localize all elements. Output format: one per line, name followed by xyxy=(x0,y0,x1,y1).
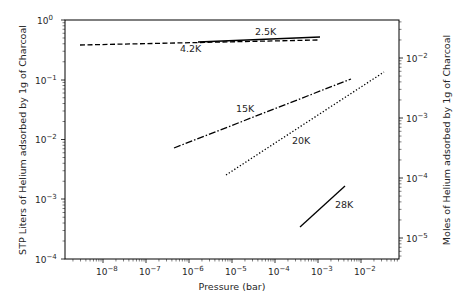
svg-text:100: 100 xyxy=(37,14,53,26)
svg-text:10−3: 10−3 xyxy=(311,265,333,277)
label-28K: 28K xyxy=(335,199,354,210)
svg-text:10−4: 10−4 xyxy=(35,253,57,265)
x-tick-labels: 10−8 10−7 10−6 10−5 10−4 10−3 10−2 xyxy=(96,265,376,277)
label-20K: 20K xyxy=(292,135,311,146)
plot-frame xyxy=(65,20,399,259)
y-right-tick-labels: 10−2 10−3 10−4 10−5 xyxy=(406,52,428,244)
chart: 10−8 10−7 10−6 10−5 10−4 10−3 10−2 100 1… xyxy=(0,0,463,301)
svg-text:10−4: 10−4 xyxy=(406,172,428,184)
svg-text:10−5: 10−5 xyxy=(225,265,247,277)
svg-text:10−7: 10−7 xyxy=(139,265,161,277)
series-15K-line xyxy=(174,79,351,148)
x-axis-label: Pressure (bar) xyxy=(199,281,266,292)
svg-text:10−2: 10−2 xyxy=(406,52,428,64)
y-right-major-ticks xyxy=(399,58,403,238)
series-labels: 2.5K 4.2K 15K 20K 28K xyxy=(180,26,354,210)
svg-text:10−2: 10−2 xyxy=(35,133,57,145)
svg-text:10−1: 10−1 xyxy=(35,74,57,86)
svg-text:10−2: 10−2 xyxy=(354,265,376,277)
svg-text:10−3: 10−3 xyxy=(35,193,57,205)
svg-text:10−3: 10−3 xyxy=(406,112,428,124)
svg-text:10−6: 10−6 xyxy=(182,265,204,277)
label-2.5K: 2.5K xyxy=(255,26,277,37)
y-axis-label: STP Liters of Helium adsorbed by 1g of C… xyxy=(17,25,28,255)
y-tick-labels: 100 10−1 10−2 10−3 10−4 xyxy=(35,14,57,265)
label-4.2K: 4.2K xyxy=(180,43,202,54)
y-right-axis-label: Moles of Helium adsorbed by 1g of Charco… xyxy=(441,35,452,245)
series-2.5K-line xyxy=(198,37,320,42)
label-15K: 15K xyxy=(236,103,255,114)
svg-text:10−8: 10−8 xyxy=(96,265,118,277)
series-20K-line xyxy=(226,72,384,175)
svg-text:10−4: 10−4 xyxy=(268,265,290,277)
svg-text:10−5: 10−5 xyxy=(406,232,428,244)
